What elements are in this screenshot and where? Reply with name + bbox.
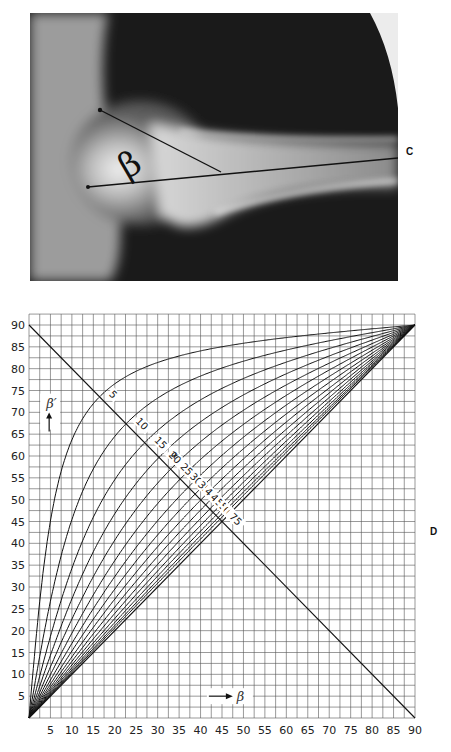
svg-text:β′: β′ xyxy=(45,396,57,411)
x-tick-label: 85 xyxy=(387,724,401,737)
y-tick-label: 85 xyxy=(11,341,25,354)
x-tick-label: 55 xyxy=(258,724,272,737)
y-tick-label: 90 xyxy=(11,319,25,332)
x-tick-label: 30 xyxy=(151,724,165,737)
curve-labels: 51015202530354045505560657075α xyxy=(106,387,247,530)
y-axis-ticks: 51015202530354045505560657075808590 xyxy=(11,319,25,703)
svg-text:β: β xyxy=(236,689,245,704)
x-tick-label: 45 xyxy=(215,724,229,737)
y-tick-label: 45 xyxy=(11,516,25,529)
x-tick-label: 50 xyxy=(236,724,250,737)
y-tick-label: 40 xyxy=(11,537,25,550)
xray-photo: β xyxy=(30,13,398,281)
y-tick-label: 35 xyxy=(11,559,25,572)
x-tick-label: 5 xyxy=(47,724,54,737)
y-tick-label: 20 xyxy=(11,625,25,638)
x-tick-label: 90 xyxy=(408,724,422,737)
y-tick-label: 25 xyxy=(11,603,25,616)
y-tick-label: 70 xyxy=(11,406,25,419)
y-tick-label: 60 xyxy=(11,450,25,463)
y-tick-label: 15 xyxy=(11,647,25,660)
y-tick-label: 10 xyxy=(11,668,25,681)
y-tick-label: 5 xyxy=(18,690,25,703)
y-tick-label: 65 xyxy=(11,428,25,441)
y-tick-label: 50 xyxy=(11,494,25,507)
y-tick-label: 80 xyxy=(11,363,25,376)
y-tick-label: 55 xyxy=(11,472,25,485)
xray-image: β xyxy=(30,13,398,281)
x-tick-label: 35 xyxy=(172,724,186,737)
x-tick-label: 10 xyxy=(65,724,79,737)
x-tick-label: 15 xyxy=(86,724,100,737)
x-tick-label: 70 xyxy=(322,724,336,737)
x-tick-label: 20 xyxy=(108,724,122,737)
x-tick-label: 65 xyxy=(301,724,315,737)
y-tick-label: 75 xyxy=(11,385,25,398)
x-tick-label: 40 xyxy=(194,724,208,737)
x-tick-label: 80 xyxy=(365,724,379,737)
nomogram-chart: 5101520253035404550556065707580859051015… xyxy=(0,290,451,752)
x-tick-label: 60 xyxy=(279,724,293,737)
label-d: D xyxy=(430,526,437,537)
y-tick-label: 30 xyxy=(11,581,25,594)
label-c: C xyxy=(406,146,413,157)
x-tick-label: 75 xyxy=(344,724,358,737)
x-tick-label: 25 xyxy=(129,724,143,737)
axis-annotation-beta-prime: β′ xyxy=(40,394,60,432)
axis-annotation-beta: β xyxy=(207,688,253,704)
x-axis-ticks: 51015202530354045505560657075808590 xyxy=(47,724,422,737)
